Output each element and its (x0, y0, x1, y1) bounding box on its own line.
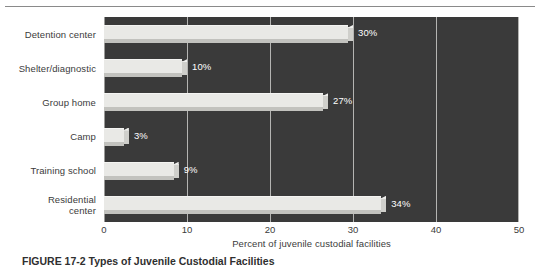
bar-end-cap (381, 198, 386, 212)
top-divider-rule (5, 6, 535, 7)
bar-value-label: 34% (391, 198, 410, 210)
category-label: Detention center (0, 29, 96, 40)
bar-row: 9% (104, 154, 519, 188)
figure-caption-title: Types of Juvenile Custodial Facilities (89, 255, 275, 267)
bar-shadow (104, 142, 124, 146)
category-label: Camp (0, 131, 96, 142)
category-label: Group home (0, 97, 96, 108)
bar-end-cap (348, 27, 353, 41)
bar-value-label: 3% (134, 130, 148, 142)
category-axis: Detention centerShelter/diagnosticGroup … (0, 17, 100, 222)
bar-value-label: 9% (184, 164, 198, 176)
bar[interactable] (104, 25, 353, 43)
x-tick-label-20: 20 (265, 224, 276, 236)
category-label-line: center (0, 205, 96, 216)
bar-value-label: 10% (192, 61, 211, 73)
category-label-line: Group home (0, 97, 96, 108)
figure-caption-number: FIGURE 17-2 (22, 255, 86, 267)
category-label-line: Shelter/diagnostic (0, 63, 96, 74)
figure-caption: FIGURE 17-2 Types of Juvenile Custodial … (22, 255, 522, 267)
bar[interactable] (104, 128, 129, 146)
category-label-line: Camp (0, 131, 96, 142)
bar-row: 27% (104, 85, 519, 119)
bar-shadow (104, 176, 174, 180)
category-label: Shelter/diagnostic (0, 63, 96, 74)
bar-row: 10% (104, 51, 519, 85)
bar[interactable] (104, 196, 386, 214)
category-label: Training school (0, 165, 96, 176)
bar-end-cap (124, 130, 129, 144)
x-axis-title: Percent of juvenile custodial facilities (104, 238, 519, 250)
x-tick-label-30: 30 (348, 224, 359, 236)
bar[interactable] (104, 162, 179, 180)
category-label-line: Residential (0, 194, 96, 205)
bar-face (104, 162, 174, 177)
plot-area: 30%10%27%3%9%34% (104, 17, 519, 222)
x-tick-label-40: 40 (431, 224, 442, 236)
bar-face (104, 128, 124, 143)
bar-value-label: 30% (358, 27, 377, 39)
bar-row: 3% (104, 120, 519, 154)
bar-shadow (104, 73, 182, 77)
bar-row: 34% (104, 188, 519, 222)
bar-shadow (104, 210, 381, 214)
x-tick-label-10: 10 (182, 224, 193, 236)
bar-end-cap (174, 164, 179, 178)
x-tick-label-50: 50 (514, 224, 525, 236)
bar-end-cap (182, 61, 187, 75)
x-tick-label-0: 0 (101, 224, 106, 236)
bar[interactable] (104, 59, 187, 77)
category-label-line: Detention center (0, 29, 96, 40)
bar-shadow (104, 107, 323, 111)
bar-end-cap (323, 95, 328, 109)
bar-row: 30% (104, 17, 519, 51)
bar-face (104, 25, 348, 40)
category-label: Residentialcenter (0, 194, 96, 216)
bar-face (104, 59, 182, 74)
bar-face (104, 93, 323, 108)
bar-face (104, 196, 381, 211)
bar-value-label: 27% (333, 95, 352, 107)
category-label-line: Training school (0, 165, 96, 176)
bar-shadow (104, 39, 348, 43)
x-axis-ticks: 01020304050 (104, 224, 519, 238)
bar[interactable] (104, 93, 328, 111)
